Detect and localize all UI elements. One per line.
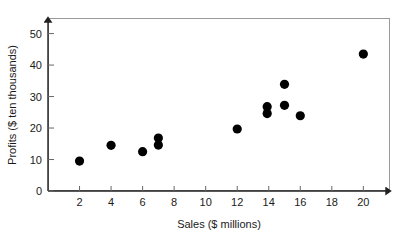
x-tick-label-6: 6 — [140, 196, 146, 208]
y-tick-label-30: 30 — [30, 91, 42, 103]
data-point — [263, 109, 272, 118]
data-point — [296, 111, 305, 120]
y-axis-tick-labels: 01020304050 — [30, 28, 42, 197]
chart-canvas: 2468101214161820 01020304050 Sales ($ mi… — [0, 0, 402, 241]
x-tick-label-4: 4 — [108, 196, 114, 208]
x-tick-label-14: 14 — [263, 196, 275, 208]
x-tick-label-18: 18 — [326, 196, 338, 208]
x-tick-label-16: 16 — [294, 196, 306, 208]
data-point — [106, 141, 115, 150]
data-point — [359, 49, 368, 58]
x-tick-label-20: 20 — [357, 196, 369, 208]
data-point-series — [75, 49, 368, 165]
data-point — [280, 101, 289, 110]
x-axis-title: Sales ($ millions) — [177, 218, 261, 230]
data-point — [154, 140, 163, 149]
y-axis-title: Profits ($ ten thousands) — [6, 45, 18, 165]
y-tick-label-40: 40 — [30, 59, 42, 71]
x-tick-label-2: 2 — [76, 196, 82, 208]
y-tick-label-10: 10 — [30, 154, 42, 166]
data-point — [280, 80, 289, 89]
data-point — [233, 124, 242, 133]
y-tick-label-50: 50 — [30, 28, 42, 40]
axis-lines — [48, 21, 387, 191]
data-point — [138, 147, 147, 156]
x-tick-label-12: 12 — [231, 196, 243, 208]
data-point — [75, 156, 84, 165]
x-axis-tick-labels: 2468101214161820 — [76, 196, 369, 208]
y-tick-label-20: 20 — [30, 122, 42, 134]
y-tick-label-0: 0 — [36, 185, 42, 197]
x-tick-label-8: 8 — [171, 196, 177, 208]
scatter-plot-figure: 2468101214161820 01020304050 Sales ($ mi… — [0, 0, 402, 241]
x-tick-label-10: 10 — [200, 196, 212, 208]
plot-area-border — [49, 19, 390, 191]
